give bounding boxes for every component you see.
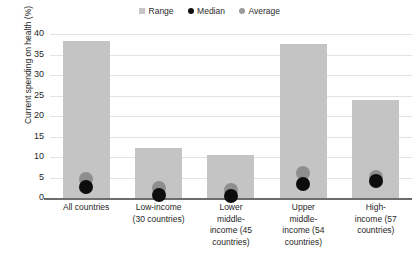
x-axis-label: All countries — [50, 202, 122, 214]
chart-legend: Range Median Average — [0, 7, 419, 16]
legend-label-median: Median — [197, 7, 225, 16]
bar-group[interactable] — [340, 34, 412, 198]
x-axis-label: Low-income(30 countries) — [122, 202, 194, 225]
range-swatch-icon — [139, 8, 145, 14]
average-dot-icon — [239, 8, 245, 14]
x-axis-label: High-income (57countries) — [340, 202, 412, 237]
x-axis-label-line: countries) — [340, 225, 412, 237]
x-axis-label-line: countries) — [267, 237, 339, 249]
x-axis-label-line: Low-income — [122, 202, 194, 214]
bar-group[interactable] — [267, 34, 339, 198]
x-axis-label: Lowermiddle-income (45countries) — [195, 202, 267, 248]
median-marker[interactable] — [369, 174, 383, 188]
y-axis-title: Current spending on health (%) — [23, 0, 33, 150]
bar-group[interactable] — [122, 34, 194, 198]
median-dot-icon — [188, 8, 194, 14]
y-tick-label-5: 5 — [26, 173, 44, 182]
legend-item-average: Average — [239, 7, 280, 16]
legend-item-range: Range — [139, 7, 174, 16]
legend-item-median: Median — [188, 7, 225, 16]
legend-label-range: Range — [149, 7, 174, 16]
y-tick-label-0: 0 — [26, 193, 44, 202]
x-axis-label-line: Upper — [267, 202, 339, 214]
legend-label-average: Average — [248, 7, 280, 16]
x-axis-label-line: Lower — [195, 202, 267, 214]
x-axis-label-line: High- — [340, 202, 412, 214]
x-axis-label: Uppermiddle-income (54countries) — [267, 202, 339, 248]
x-axis-label-line: middle- — [267, 214, 339, 226]
median-marker[interactable] — [224, 189, 238, 203]
bar-group[interactable] — [195, 34, 267, 198]
x-axis-label-line: income (45 — [195, 225, 267, 237]
x-axis-label-line: income (57 — [340, 214, 412, 226]
x-axis-labels: All countriesLow-income(30 countries)Low… — [50, 202, 412, 264]
bar-group[interactable] — [50, 34, 122, 198]
y-tick-label-10: 10 — [26, 152, 44, 161]
x-axis-label-line: middle- — [195, 214, 267, 226]
median-marker[interactable] — [152, 188, 166, 202]
x-axis-label-line: All countries — [50, 202, 122, 214]
x-axis-label-line: income (54 — [267, 225, 339, 237]
x-axis-label-line: countries) — [195, 237, 267, 249]
chart-container: Range Median Average Current spending on… — [0, 0, 419, 266]
bar-series-group — [50, 34, 412, 198]
x-axis-label-line: (30 countries) — [122, 214, 194, 226]
